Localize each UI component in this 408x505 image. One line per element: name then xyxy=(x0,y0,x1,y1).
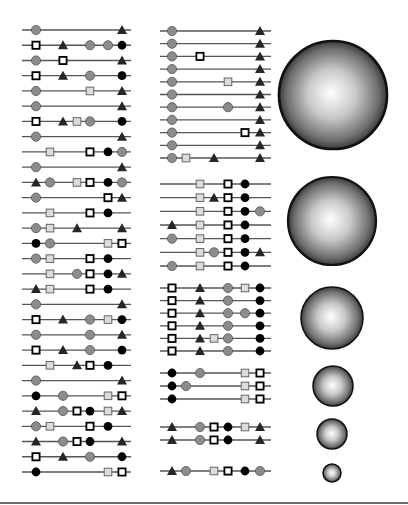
diagram-row xyxy=(22,55,131,65)
black-dot-icon xyxy=(224,423,233,432)
gray-circle-icon xyxy=(240,309,249,318)
diagram-row xyxy=(22,452,131,462)
light-square-icon xyxy=(46,285,54,293)
diagram-row xyxy=(22,376,131,386)
bottom-divider xyxy=(0,502,408,504)
gray-circle-icon xyxy=(85,452,94,461)
light-square-icon xyxy=(104,468,112,476)
gray-circle-icon xyxy=(167,141,176,150)
row-group xyxy=(160,26,271,163)
diagram-row xyxy=(22,330,131,340)
row-group xyxy=(160,283,271,356)
black-dot-icon xyxy=(241,207,250,216)
black-dot-icon xyxy=(118,346,127,355)
diagram-row xyxy=(22,40,131,50)
gray-circle-icon xyxy=(167,234,176,243)
diagram-row xyxy=(22,360,131,369)
hollow-square-icon xyxy=(224,249,231,256)
hollow-square-icon xyxy=(32,118,39,125)
gray-circle-icon xyxy=(85,71,94,80)
hollow-square-icon xyxy=(210,436,217,443)
black-dot-icon xyxy=(104,178,113,187)
light-square-icon xyxy=(241,382,249,390)
gray-circle-icon xyxy=(31,300,40,309)
hollow-square-icon xyxy=(168,284,175,291)
hollow-square-icon xyxy=(224,467,231,474)
hollow-square-icon xyxy=(73,407,80,414)
diagram-row xyxy=(22,284,131,293)
row-group xyxy=(160,466,271,476)
diagram-row xyxy=(160,435,271,445)
light-square-icon xyxy=(46,209,54,217)
black-dot-icon xyxy=(241,193,250,202)
hollow-square-icon xyxy=(256,382,263,389)
diagram-row xyxy=(160,395,271,404)
gray-circle-icon xyxy=(117,178,126,187)
black-dot-icon xyxy=(256,347,265,356)
black-dot-icon xyxy=(104,285,113,294)
hollow-square-icon xyxy=(32,42,39,49)
diagram-row xyxy=(160,140,271,150)
black-dot-icon xyxy=(104,254,113,263)
diagram-row xyxy=(160,422,271,432)
diagram-row xyxy=(160,115,271,125)
diagram-row xyxy=(160,26,271,36)
gray-circle-icon xyxy=(85,117,94,126)
diagram-row xyxy=(160,346,271,356)
hollow-square-icon xyxy=(32,346,39,353)
gray-circle-icon xyxy=(167,115,176,124)
hollow-square-icon xyxy=(224,235,231,242)
gray-circle-icon xyxy=(31,163,40,172)
gray-circle-icon xyxy=(85,345,94,354)
black-dot-icon xyxy=(118,452,127,461)
hollow-square-icon xyxy=(118,468,125,475)
gray-circle-icon xyxy=(255,466,264,475)
hollow-square-icon xyxy=(86,270,93,277)
black-dot-icon xyxy=(104,361,113,370)
black-dot-icon xyxy=(104,269,113,278)
black-dot-icon xyxy=(224,436,233,445)
diagram-row xyxy=(22,101,131,111)
gray-circle-icon xyxy=(167,65,176,74)
black-dot-icon xyxy=(241,221,250,230)
hollow-square-icon xyxy=(32,72,39,79)
row-group xyxy=(160,368,271,403)
hollow-square-icon xyxy=(168,297,175,304)
sphere-icon xyxy=(288,177,376,265)
diagram-row xyxy=(160,64,271,74)
light-square-icon xyxy=(196,235,204,243)
light-square-icon xyxy=(241,423,249,431)
black-dot-icon xyxy=(32,468,41,477)
hollow-square-icon xyxy=(256,395,263,402)
gray-circle-icon xyxy=(85,330,94,339)
gray-circle-icon xyxy=(31,132,40,141)
diagram-row xyxy=(22,132,131,142)
light-square-icon xyxy=(224,78,232,86)
light-square-icon xyxy=(73,179,81,187)
hollow-square-icon xyxy=(224,194,231,201)
black-dot-icon xyxy=(241,234,250,243)
hollow-square-icon xyxy=(168,310,175,317)
gray-circle-icon xyxy=(45,178,54,187)
diagram-row xyxy=(22,254,131,263)
hollow-square-icon xyxy=(59,57,66,64)
black-dot-icon xyxy=(118,315,127,324)
light-square-icon xyxy=(210,467,218,475)
gray-circle-icon xyxy=(167,153,176,162)
diagram-row xyxy=(160,466,271,476)
diagram-row xyxy=(160,207,271,216)
diagram-row xyxy=(22,71,131,81)
left-row-panel xyxy=(22,25,131,476)
black-dot-icon xyxy=(118,117,127,126)
hollow-square-icon xyxy=(210,423,217,430)
hollow-square-icon xyxy=(168,335,175,342)
light-square-icon xyxy=(196,221,204,229)
diagram-row xyxy=(160,308,271,318)
middle-row-panel xyxy=(160,26,271,476)
diagram-row xyxy=(160,128,271,138)
gray-circle-icon xyxy=(85,315,94,324)
gray-circle-icon xyxy=(223,309,232,318)
diagram-row xyxy=(160,180,271,189)
hollow-square-icon xyxy=(118,240,125,247)
light-square-icon xyxy=(241,284,249,292)
